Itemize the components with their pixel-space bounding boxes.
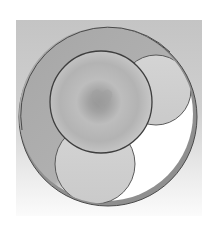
sphere-diagram — [0, 0, 216, 230]
